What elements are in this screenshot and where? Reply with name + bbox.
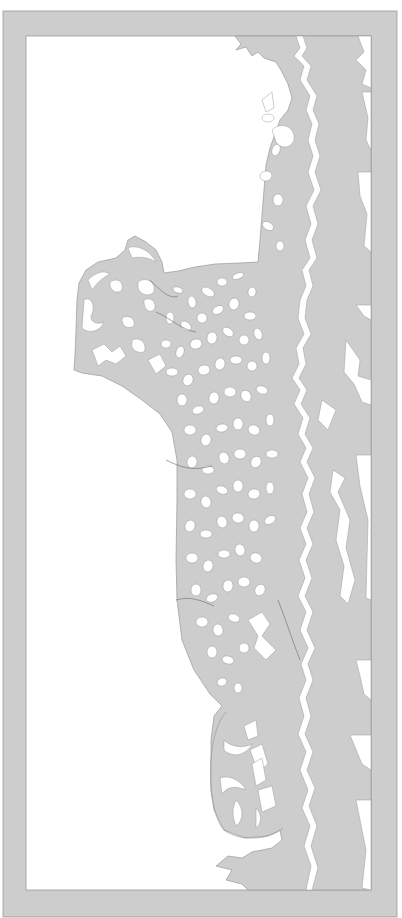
spot-cutout — [249, 520, 259, 532]
spot-cutout — [207, 646, 217, 658]
spot-cutout — [239, 643, 249, 653]
spot-cutout — [233, 480, 243, 492]
spot-cutout — [276, 241, 284, 251]
spot-cutout — [266, 414, 274, 426]
spot-cutout — [186, 553, 198, 563]
spot-cutout — [266, 450, 278, 458]
papercut-artwork — [0, 0, 402, 918]
spot-cutout — [262, 352, 270, 364]
spot-cutout — [262, 114, 274, 122]
spot-cutout — [244, 312, 256, 320]
spot-cutout — [234, 449, 246, 459]
spot-cutout — [184, 489, 196, 499]
spot-cutout — [197, 313, 207, 323]
spot-cutout — [218, 550, 230, 558]
spot-cutout — [234, 683, 242, 693]
spot-cutout — [191, 584, 201, 596]
spot-cutout — [273, 194, 283, 206]
spot-cutout — [161, 340, 171, 348]
spot-cutout — [177, 394, 187, 406]
spot-cutout — [233, 418, 243, 430]
spot-cutout — [239, 335, 249, 345]
spot-cutout — [196, 617, 208, 627]
spot-cutout — [166, 368, 178, 376]
spot-cutout — [238, 577, 250, 587]
spot-cutout — [184, 425, 196, 435]
spot-cutout — [200, 530, 212, 538]
spot-cutout — [266, 482, 274, 494]
spot-cutout — [217, 278, 227, 286]
spot-cutout — [224, 387, 236, 397]
spot-cutout — [230, 356, 242, 364]
